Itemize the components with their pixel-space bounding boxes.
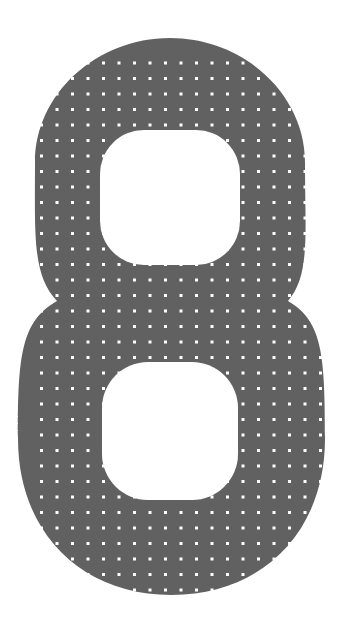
glyph-body-group xyxy=(18,38,325,595)
lower-counter xyxy=(102,362,238,500)
glyph-outline-path xyxy=(18,38,325,595)
numeral-eight-glyph xyxy=(0,0,348,637)
image-canvas: Perforated numeral eight Large sans-seri… xyxy=(0,0,348,637)
upper-counter xyxy=(100,130,240,265)
